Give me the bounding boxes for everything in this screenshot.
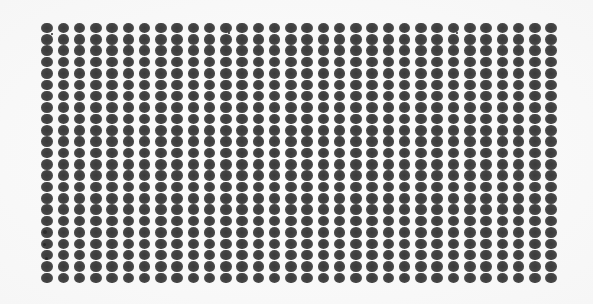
dot bbox=[106, 68, 118, 79]
dot bbox=[155, 136, 167, 147]
dot bbox=[480, 250, 492, 261]
dot bbox=[431, 57, 443, 68]
dot bbox=[431, 148, 443, 159]
dot bbox=[431, 204, 443, 215]
dot bbox=[74, 23, 86, 34]
dot bbox=[464, 80, 476, 91]
dot bbox=[350, 148, 362, 159]
dot bbox=[513, 125, 525, 136]
dot bbox=[318, 250, 330, 261]
dot bbox=[269, 23, 281, 34]
dot bbox=[399, 34, 411, 45]
dot bbox=[74, 273, 86, 284]
dot bbox=[58, 114, 70, 125]
dot bbox=[431, 250, 443, 261]
dot bbox=[188, 80, 200, 91]
dot bbox=[41, 91, 53, 102]
dot bbox=[204, 136, 216, 147]
dot bbox=[253, 148, 265, 159]
dot bbox=[399, 227, 411, 238]
dot bbox=[253, 182, 265, 193]
dot bbox=[106, 57, 118, 68]
dot bbox=[431, 125, 443, 136]
dot bbox=[236, 136, 248, 147]
dot bbox=[41, 34, 53, 45]
dot bbox=[529, 148, 541, 159]
dot bbox=[220, 80, 232, 91]
dot bbox=[497, 57, 509, 68]
dot bbox=[545, 239, 557, 250]
dot bbox=[236, 34, 248, 45]
dot bbox=[529, 239, 541, 250]
dot bbox=[123, 68, 135, 79]
dot bbox=[58, 102, 70, 113]
dot bbox=[106, 114, 118, 125]
dot bbox=[431, 136, 443, 147]
dot bbox=[497, 250, 509, 261]
dot bbox=[350, 68, 362, 79]
dot bbox=[318, 34, 330, 45]
dot bbox=[334, 80, 346, 91]
dot bbox=[90, 250, 102, 261]
dot bbox=[529, 182, 541, 193]
dot bbox=[220, 170, 232, 181]
dot bbox=[448, 45, 460, 56]
dot bbox=[350, 57, 362, 68]
dot bbox=[529, 193, 541, 204]
dot bbox=[188, 250, 200, 261]
dot bbox=[301, 204, 313, 215]
dot bbox=[545, 23, 557, 34]
dot bbox=[90, 34, 102, 45]
dot bbox=[269, 136, 281, 147]
dot bbox=[204, 216, 216, 227]
dot bbox=[464, 102, 476, 113]
dot bbox=[545, 193, 557, 204]
dot bbox=[220, 114, 232, 125]
dot bbox=[334, 125, 346, 136]
dot bbox=[464, 182, 476, 193]
dot bbox=[448, 273, 460, 284]
dot bbox=[220, 136, 232, 147]
dot bbox=[236, 45, 248, 56]
dot bbox=[350, 136, 362, 147]
dot bbox=[513, 136, 525, 147]
dot bbox=[448, 261, 460, 272]
dot bbox=[464, 227, 476, 238]
dot bbox=[464, 250, 476, 261]
dot bbox=[497, 216, 509, 227]
dot bbox=[545, 170, 557, 181]
dot bbox=[90, 261, 102, 272]
dot bbox=[155, 193, 167, 204]
dot bbox=[123, 57, 135, 68]
dot bbox=[90, 170, 102, 181]
dot bbox=[188, 148, 200, 159]
dot bbox=[58, 45, 70, 56]
dot bbox=[383, 57, 395, 68]
dot bbox=[269, 102, 281, 113]
dot bbox=[155, 239, 167, 250]
dot bbox=[350, 193, 362, 204]
dot bbox=[497, 148, 509, 159]
dot bbox=[366, 23, 378, 34]
dot bbox=[497, 23, 509, 34]
dot bbox=[139, 23, 151, 34]
dot bbox=[188, 102, 200, 113]
dot bbox=[90, 148, 102, 159]
dot bbox=[529, 273, 541, 284]
dot bbox=[285, 148, 297, 159]
dot bbox=[90, 136, 102, 147]
dot bbox=[90, 159, 102, 170]
dot bbox=[58, 204, 70, 215]
dot bbox=[301, 34, 313, 45]
dot bbox=[74, 80, 86, 91]
dot bbox=[529, 45, 541, 56]
dot bbox=[513, 261, 525, 272]
dot bbox=[139, 114, 151, 125]
dot bbox=[334, 148, 346, 159]
dot bbox=[431, 68, 443, 79]
dot bbox=[513, 204, 525, 215]
dot bbox=[74, 57, 86, 68]
dot bbox=[399, 102, 411, 113]
dot bbox=[480, 34, 492, 45]
dot bbox=[253, 68, 265, 79]
